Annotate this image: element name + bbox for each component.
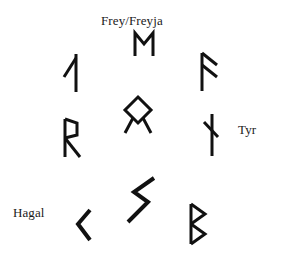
rune-diagram-canvas: Frey/Freyja Tyr Hagal xyxy=(0,0,283,256)
ansuz-rune xyxy=(199,52,219,92)
madr-rune xyxy=(133,32,155,57)
label-hagal: Hagal xyxy=(13,205,45,220)
laguz-rune xyxy=(62,53,80,93)
hagal-rune xyxy=(74,208,92,242)
tyr-rune xyxy=(203,113,219,157)
label-frey-freyja: Frey/Freyja xyxy=(101,13,163,28)
label-tyr: Tyr xyxy=(238,122,256,137)
othala-rune xyxy=(122,95,154,135)
berkana-rune xyxy=(188,203,208,245)
sowilo-large-rune xyxy=(122,176,156,224)
raido-rune xyxy=(62,118,82,158)
